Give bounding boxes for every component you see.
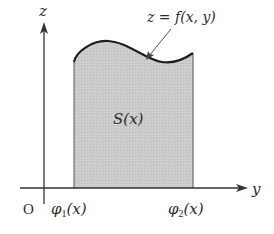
surface-pointer-line bbox=[149, 29, 171, 56]
diagram-canvas: z y O z = f(x, y) S(x) φ1(x) φ2(x) bbox=[0, 0, 274, 234]
region-label: S(x) bbox=[113, 110, 144, 128]
upper-bound-label: φ2(x) bbox=[168, 200, 204, 219]
origin-label: O bbox=[23, 201, 34, 217]
z-axis-label: z bbox=[38, 2, 47, 20]
surface-label: z = f(x, y) bbox=[146, 9, 216, 25]
lower-bound-label: φ1(x) bbox=[51, 200, 87, 219]
y-axis-label: y bbox=[251, 180, 261, 198]
